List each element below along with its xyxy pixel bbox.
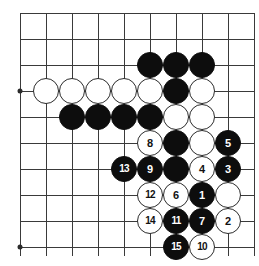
stone-black-move-11[interactable]: 11 xyxy=(163,208,189,234)
grid-line-horizontal xyxy=(20,13,254,14)
move-number-label: 4 xyxy=(199,164,205,175)
stone-black-move-7[interactable]: 7 xyxy=(189,208,215,234)
stone-white-move-6[interactable]: 6 xyxy=(163,182,189,208)
stone-white[interactable] xyxy=(215,182,241,208)
grid-line-vertical xyxy=(254,13,255,256)
move-number-label: 13 xyxy=(119,164,129,174)
stone-black[interactable] xyxy=(137,52,163,78)
move-number-label: 12 xyxy=(145,190,155,200)
move-number-label: 1 xyxy=(199,190,205,201)
stone-white[interactable] xyxy=(189,130,215,156)
grid-line-horizontal xyxy=(20,39,254,40)
stone-black[interactable] xyxy=(163,130,189,156)
star-point xyxy=(18,89,23,94)
stone-black[interactable] xyxy=(163,78,189,104)
move-number-label: 10 xyxy=(197,242,207,252)
grid-line-vertical xyxy=(72,13,73,256)
move-number-label: 2 xyxy=(225,216,231,227)
grid-line-horizontal xyxy=(20,247,254,248)
stone-white-move-4[interactable]: 4 xyxy=(189,156,215,182)
stone-white[interactable] xyxy=(111,78,137,104)
stone-white-move-14[interactable]: 14 xyxy=(137,208,163,234)
stone-black-move-3[interactable]: 3 xyxy=(215,156,241,182)
grid-line-vertical xyxy=(20,13,21,256)
stone-white[interactable] xyxy=(189,78,215,104)
move-number-label: 7 xyxy=(199,216,205,227)
stone-black[interactable] xyxy=(189,52,215,78)
stone-white[interactable] xyxy=(163,104,189,130)
move-number-label: 11 xyxy=(172,216,181,226)
stone-black-move-9[interactable]: 9 xyxy=(137,156,163,182)
stone-black-move-5[interactable]: 5 xyxy=(215,130,241,156)
move-number-label: 9 xyxy=(147,164,153,175)
grid-line-vertical xyxy=(124,13,125,256)
stone-white-move-2[interactable]: 2 xyxy=(215,208,241,234)
stone-white[interactable] xyxy=(33,78,59,104)
grid-line-vertical xyxy=(46,13,47,256)
move-number-label: 15 xyxy=(171,242,181,252)
stone-black[interactable] xyxy=(111,104,137,130)
move-number-label: 6 xyxy=(173,190,179,201)
stone-white[interactable] xyxy=(189,104,215,130)
star-point xyxy=(18,245,23,250)
stone-black[interactable] xyxy=(163,52,189,78)
stone-black[interactable] xyxy=(59,104,85,130)
go-board[interactable]: 851394312611411721510 xyxy=(0,0,259,266)
stone-black[interactable] xyxy=(85,104,111,130)
stone-black[interactable] xyxy=(163,156,189,182)
move-number-label: 14 xyxy=(145,216,155,226)
stone-white[interactable] xyxy=(59,78,85,104)
stone-white[interactable] xyxy=(85,78,111,104)
stone-white-move-8[interactable]: 8 xyxy=(137,130,163,156)
stone-black[interactable] xyxy=(137,104,163,130)
stone-white-move-12[interactable]: 12 xyxy=(137,182,163,208)
move-number-label: 3 xyxy=(225,164,231,175)
stone-black-move-13[interactable]: 13 xyxy=(111,156,137,182)
stone-white[interactable] xyxy=(137,78,163,104)
move-number-label: 8 xyxy=(147,138,153,149)
stone-black-move-15[interactable]: 15 xyxy=(163,234,189,260)
stone-white-move-10[interactable]: 10 xyxy=(189,234,215,260)
stone-black-move-1[interactable]: 1 xyxy=(189,182,215,208)
move-number-label: 5 xyxy=(225,138,231,149)
grid-line-vertical xyxy=(98,13,99,256)
